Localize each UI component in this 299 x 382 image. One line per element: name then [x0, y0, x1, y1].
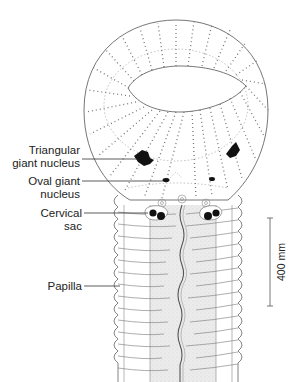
label-papilla: Papilla — [47, 280, 82, 293]
oval-nucleus-right — [209, 177, 215, 181]
ventral-band — [150, 205, 216, 382]
oval-nucleus-left — [163, 178, 170, 182]
scale-bar — [267, 218, 273, 306]
label-line: giant nucleus — [12, 157, 80, 170]
label-cervical-sac: Cervical sac — [40, 207, 82, 233]
label-line: nucleus — [28, 188, 80, 201]
label-line: sac — [40, 220, 82, 233]
label-line: Oval giant — [28, 175, 80, 188]
scale-bar-label: 400 mm — [275, 237, 287, 287]
label-oval-giant-nucleus: Oval giant nucleus — [28, 175, 80, 201]
label-line: Cervical — [40, 207, 82, 220]
body-trunk — [114, 190, 242, 382]
label-line: Triangular — [12, 144, 80, 157]
head-disc — [84, 20, 268, 207]
label-triangular-giant-nucleus: Triangular giant nucleus — [12, 144, 80, 170]
